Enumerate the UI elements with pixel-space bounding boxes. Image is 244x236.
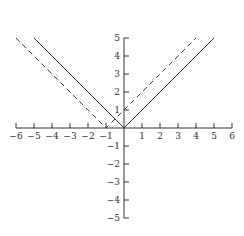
x-tick-label: 4 (193, 131, 199, 141)
x-tick-label: 5 (211, 131, 217, 141)
y-tick-label: 3 (114, 69, 120, 79)
y-tick-label: 2 (114, 87, 120, 97)
y-tick-label: −5 (107, 213, 121, 223)
chart: −6−5−4−3−2−1123456−5−4−3−2−112345 (0, 0, 244, 236)
x-tick-label: −2 (81, 131, 94, 141)
y-tick-label: 1 (114, 105, 120, 115)
y-tick-label: 5 (114, 33, 120, 43)
x-tick-label: 6 (229, 131, 235, 141)
y-tick-label: −4 (107, 195, 121, 205)
y-tick-label: −2 (107, 159, 120, 169)
x-tick-label: 3 (175, 131, 181, 141)
x-tick-label: −4 (45, 131, 59, 141)
y-tick-label: −1 (107, 141, 120, 151)
x-tick-label: 2 (157, 131, 163, 141)
y-tick-label: 4 (114, 51, 120, 61)
y-tick-label: −3 (107, 177, 121, 187)
x-tick-label: −5 (27, 131, 41, 141)
x-tick-label: −6 (9, 131, 23, 141)
x-tick-label: −1 (99, 131, 112, 141)
x-tick-label: −3 (63, 131, 77, 141)
x-tick-label: 1 (139, 131, 145, 141)
